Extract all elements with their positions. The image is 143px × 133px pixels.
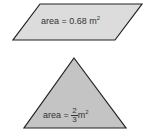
triangle-area-label: area = 23m2 [43,107,89,124]
area-value: 0.68 [69,16,87,26]
label-prefix: area = [41,16,69,26]
area-exponent: 2 [97,15,100,21]
area-exponent: 2 [85,109,88,115]
parallelogram-area-label: area = 0.68 m2 [41,15,100,26]
area-unit: m [89,16,97,26]
label-prefix: area = [43,110,71,120]
